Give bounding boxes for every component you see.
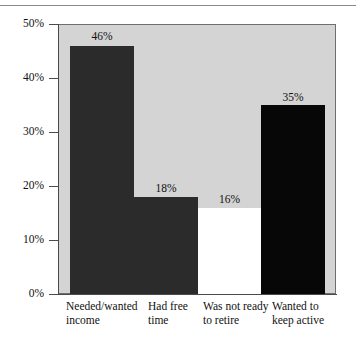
y-tick-label-50: 50% (23, 18, 44, 30)
x-category-label-wanted-to-keep-active: Wanted to keep active (272, 300, 346, 327)
bar-value-label-wanted-to-keep-active: 35% (261, 92, 325, 104)
y-tick-label-20: 20% (23, 180, 44, 192)
y-tick-mark-10 (49, 240, 58, 241)
y-tick-mark-50 (49, 24, 58, 25)
y-tick-label-0: 0% (29, 288, 44, 300)
x-category-label-needed-wanted-income: Needed/wanted income (66, 300, 140, 327)
bar-chart-figure: 50% 40% 30% 20% 10% 0% 46% 18% 16% 35% N… (0, 0, 356, 353)
y-tick-mark-20 (49, 186, 58, 187)
x-category-label-line2: income (66, 314, 140, 328)
bar-value-label-had-free-time: 18% (134, 183, 198, 195)
plot-area (58, 24, 336, 294)
bar-value-label-was-not-ready-to-retire: 16% (198, 194, 261, 206)
x-category-label-line1: Was not ready (203, 300, 277, 314)
x-category-label-line2: to retire (203, 314, 277, 328)
x-category-label-line2: keep active (272, 314, 346, 328)
top-divider-rule (0, 5, 356, 6)
x-category-label-line1: Had free (148, 300, 208, 314)
y-tick-label-30: 30% (23, 126, 44, 138)
x-category-label-line1: Wanted to (272, 300, 346, 314)
y-axis-line (58, 24, 59, 295)
x-category-label-line2: time (148, 314, 208, 328)
bar-value-label-needed-wanted-income: 46% (70, 31, 134, 43)
x-category-label-was-not-ready-to-retire: Was not ready to retire (203, 300, 277, 327)
x-axis-line (58, 294, 337, 295)
x-category-label-had-free-time: Had free time (148, 300, 208, 327)
y-tick-mark-40 (49, 78, 58, 79)
y-tick-label-40: 40% (23, 72, 44, 84)
y-tick-mark-30 (49, 132, 58, 133)
y-tick-mark-0 (49, 294, 58, 295)
y-tick-label-10: 10% (23, 234, 44, 246)
x-category-label-line1: Needed/wanted (66, 300, 140, 314)
